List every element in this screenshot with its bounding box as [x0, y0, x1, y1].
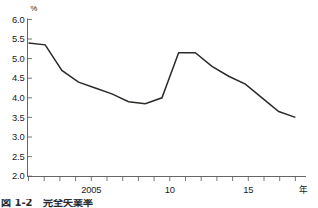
- line-chart: % 6.0 5.5 5.0 4.5 4.0 3.5 3.0 2.5 2.0: [0, 0, 318, 208]
- chart-container: % 6.0 5.5 5.0 4.5 4.0 3.5 3.0 2.5 2.0: [0, 0, 318, 208]
- data-series-unemployment-rate: [29, 43, 296, 117]
- x-tick-label-2005: 2005: [81, 184, 101, 195]
- figure-caption: 図 1-2 完全失業率: [0, 199, 318, 208]
- y-tick-label-3.5: 3.5: [12, 112, 24, 123]
- x-tick-label-15: 15: [243, 184, 253, 195]
- y-tick-label-5.0: 5.0: [12, 53, 24, 64]
- figure-caption-text: 図 1-2 完全失業率: [1, 199, 93, 208]
- y-tick-label-2.5: 2.5: [12, 151, 24, 162]
- y-tick-label-3.0: 3.0: [12, 131, 24, 142]
- y-tick-label-4.5: 4.5: [12, 72, 24, 83]
- x-tick-label-10: 10: [165, 184, 175, 195]
- y-tick-label-2.0: 2.0: [12, 170, 24, 181]
- y-axis-unit-label: %: [31, 4, 38, 13]
- y-tick-label-5.5: 5.5: [12, 33, 24, 44]
- y-tick-label-6.0: 6.0: [12, 14, 24, 25]
- x-axis-ticks: [29, 177, 296, 182]
- x-axis-unit-label: 年: [299, 184, 308, 195]
- y-tick-label-4.0: 4.0: [12, 92, 24, 103]
